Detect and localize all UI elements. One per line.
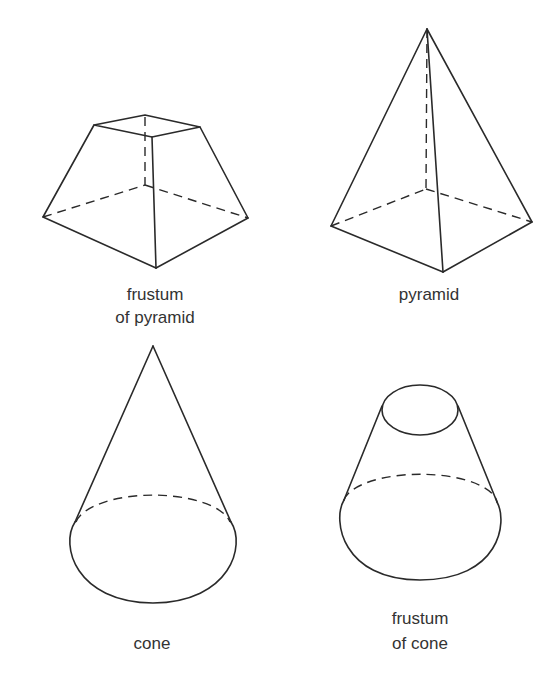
cone-figure (70, 346, 236, 603)
solids-diagram: frustum of pyramid pyramid cone frustum … (0, 0, 556, 684)
frustum-of-pyramid-label-2: of pyramid (115, 308, 194, 327)
frustum-of-pyramid-figure (43, 115, 248, 268)
frustum-of-cone-label-2: of cone (392, 634, 448, 653)
frustum-of-pyramid-label-1: frustum (127, 285, 184, 304)
cone-label: cone (134, 634, 171, 653)
pyramid-figure (331, 29, 532, 272)
frustum-of-cone-figure (340, 385, 501, 580)
pyramid-label: pyramid (399, 285, 459, 304)
frustum-of-cone-label-1: frustum (392, 609, 449, 628)
